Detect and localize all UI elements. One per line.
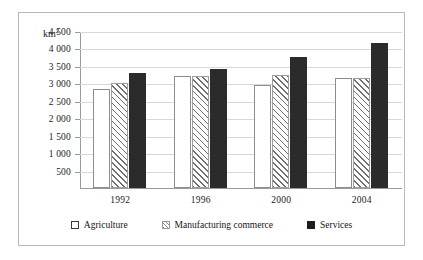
y-axis-tick-mark xyxy=(75,137,80,138)
y-axis-tick-mark xyxy=(75,119,80,120)
bar-services-2000 xyxy=(290,57,307,188)
legend-swatch-agriculture-icon xyxy=(71,221,79,229)
y-axis-tick-mark xyxy=(75,84,80,85)
y-axis-tick-label: 2 500 xyxy=(49,97,71,107)
bar-agriculture-2000 xyxy=(254,85,271,188)
plot-area: 4 5004 0003 5003 0002 5002 0001 5001 000… xyxy=(80,32,402,189)
bar-agriculture-1996 xyxy=(174,76,191,188)
bar-manufacturing-2000 xyxy=(272,75,289,188)
legend-label: Manufacturing commerce xyxy=(175,220,273,230)
y-axis-tick-mark xyxy=(75,67,80,68)
bar-agriculture-2004 xyxy=(335,78,352,188)
bar-services-1996 xyxy=(210,69,227,188)
bar-group: 2000 xyxy=(254,31,308,188)
legend-item-services[interactable]: Services xyxy=(307,220,352,230)
chart-legend: AgricultureManufacturing commerceService… xyxy=(19,220,404,230)
y-axis-tick-label: 3 000 xyxy=(49,79,71,89)
chart-frame: km2 4 5004 0003 5003 0002 5002 0001 5001… xyxy=(18,12,405,246)
bar-group: 2004 xyxy=(335,31,389,188)
y-axis-tick-mark xyxy=(75,102,80,103)
y-axis-tick-mark xyxy=(75,154,80,155)
y-axis-tick-mark xyxy=(75,172,80,173)
bar-agriculture-1992 xyxy=(93,89,110,188)
bar-services-1992 xyxy=(129,73,146,188)
legend-item-manufacturing[interactable]: Manufacturing commerce xyxy=(162,220,273,230)
bar-manufacturing-2004 xyxy=(353,78,370,188)
x-axis-tick-label: 1996 xyxy=(174,195,228,205)
x-axis-tick-label: 2004 xyxy=(335,195,389,205)
bar-group: 1996 xyxy=(174,31,228,188)
legend-item-agriculture[interactable]: Agriculture xyxy=(71,220,128,230)
y-axis-tick-label: 1 000 xyxy=(49,149,71,159)
bar-manufacturing-1996 xyxy=(192,76,209,188)
bar-manufacturing-1992 xyxy=(111,83,128,188)
y-axis-tick-label: 4 000 xyxy=(49,44,71,54)
y-axis-tick-label: 500 xyxy=(56,167,71,177)
legend-label: Agriculture xyxy=(84,220,128,230)
bar-services-2004 xyxy=(371,43,388,188)
legend-swatch-manufacturing-icon xyxy=(162,221,170,229)
y-axis-tick-mark xyxy=(75,49,80,50)
x-axis-tick-label: 1992 xyxy=(93,195,147,205)
bar-group: 1992 xyxy=(93,31,147,188)
y-axis-tick-label: 3 500 xyxy=(49,62,71,72)
y-axis-tick-label: 2 000 xyxy=(49,114,71,124)
y-axis-tick-label: 4 500 xyxy=(49,27,71,37)
legend-swatch-services-icon xyxy=(307,221,315,229)
x-axis-tick-label: 2000 xyxy=(254,195,308,205)
y-axis-line xyxy=(80,32,81,189)
x-axis-line xyxy=(80,188,402,189)
y-axis-tick-label: 1 500 xyxy=(49,132,71,142)
y-axis-tick-mark xyxy=(75,32,80,33)
legend-label: Services xyxy=(320,220,352,230)
